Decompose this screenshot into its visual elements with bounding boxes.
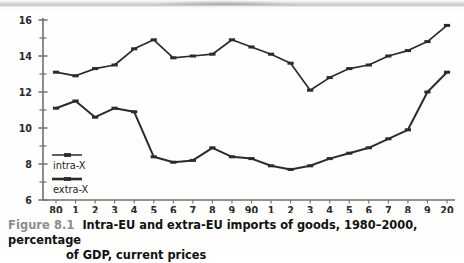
data-point-marker [92, 67, 98, 70]
data-point-marker [190, 159, 196, 162]
data-point-marker [151, 155, 157, 158]
data-point-marker [131, 110, 137, 113]
data-point-marker [424, 91, 430, 94]
x-axis-tick-label: 20 [440, 205, 454, 213]
y-axis-tick-label: 6 [25, 195, 32, 206]
data-point-marker [229, 155, 235, 158]
data-point-marker [307, 164, 313, 167]
data-series-group [53, 24, 450, 171]
data-point-marker [405, 128, 411, 131]
y-axis-tick-label: 8 [25, 159, 32, 170]
x-axis-tick-label: 8 [405, 205, 412, 213]
x-axis-tick-label: 4 [131, 205, 138, 213]
data-point-marker [112, 107, 118, 110]
line-chart: 1614121086 801234567899012345678920 intr… [0, 8, 464, 213]
y-axis-tick-label: 14 [19, 51, 33, 62]
data-point-marker [366, 64, 372, 67]
x-axis-tick-label: 9 [229, 205, 236, 213]
data-point-marker [268, 164, 274, 167]
data-point-marker [327, 76, 333, 79]
x-axis-tick-label: 90 [245, 205, 259, 213]
legend-label-intra-X: intra-X [53, 160, 86, 171]
data-point-marker [190, 55, 196, 58]
data-point-marker [424, 40, 430, 43]
x-axis-tick-label: 3 [111, 205, 118, 213]
x-axis-tick-label: 8 [209, 205, 216, 213]
data-point-marker [248, 157, 254, 160]
data-point-marker [366, 146, 372, 149]
figure-number: Figure 8.1 [8, 218, 74, 232]
legend-label-extra-X: extra-X [53, 184, 89, 195]
data-point-marker [131, 47, 137, 50]
chart-canvas: 1614121086 801234567899012345678920 intr… [0, 8, 464, 213]
data-point-marker [53, 71, 59, 74]
y-axis-tick-label: 10 [19, 123, 33, 134]
x-axis-tick-label: 7 [385, 205, 392, 213]
data-point-marker [248, 46, 254, 49]
x-axis-tick-label: 5 [150, 205, 157, 213]
data-point-marker [444, 71, 450, 74]
x-axis-tick-label: 2 [287, 205, 294, 213]
figure-caption: Figure 8.1 Intra-EU and extra-EU imports… [8, 218, 458, 263]
data-point-marker [112, 64, 118, 67]
data-point-marker [170, 161, 176, 164]
data-series-intra-X [53, 24, 450, 92]
data-point-marker [151, 38, 157, 41]
data-point-marker [346, 67, 352, 70]
x-axis-tick-label: 4 [326, 205, 333, 213]
data-point-marker [288, 62, 294, 65]
data-point-marker [53, 107, 59, 110]
x-axis-tick-label: 7 [190, 205, 197, 213]
data-point-marker [346, 152, 352, 155]
x-axis-tick-label: 5 [346, 205, 353, 213]
data-point-marker [72, 74, 78, 77]
x-axis-tick-label: 6 [170, 205, 177, 213]
data-point-marker [170, 56, 176, 59]
y-axis-tick-label: 16 [19, 15, 33, 26]
data-point-marker [444, 24, 450, 27]
legend-item-extra-X: extra-X [52, 177, 89, 194]
x-axis-tick-label: 3 [307, 205, 314, 213]
data-point-marker [92, 116, 98, 119]
chart-legend: intra-Xextra-X [52, 153, 89, 194]
x-axis-tick-label: 2 [92, 205, 99, 213]
x-axis-tick-label: 9 [424, 205, 431, 213]
data-point-marker [72, 100, 78, 103]
data-point-marker [327, 157, 333, 160]
y-axis-tick-label: 12 [19, 87, 32, 98]
y-axis: 1614121086 [19, 15, 48, 206]
data-point-marker [209, 146, 215, 149]
x-axis-tick-label: 1 [268, 205, 275, 213]
scan-smudge-artifact [150, 0, 300, 5]
data-point-marker [229, 38, 235, 41]
x-axis: 801234567899012345678920 [43, 200, 455, 213]
data-point-marker [288, 168, 294, 171]
legend-item-intra-X: intra-X [52, 153, 86, 170]
x-axis-tick-label: 6 [365, 205, 372, 213]
data-point-marker [405, 49, 411, 52]
x-axis-tick-label: 80 [49, 205, 63, 213]
data-point-marker [307, 89, 313, 92]
data-point-marker [385, 137, 391, 140]
data-series-extra-X [53, 71, 450, 171]
data-point-marker [385, 55, 391, 58]
data-point-marker [268, 53, 274, 56]
x-axis-tick-label: 1 [72, 205, 79, 213]
figure-caption-line2: of GDP, current prices [66, 248, 458, 263]
data-point-marker [209, 53, 215, 56]
